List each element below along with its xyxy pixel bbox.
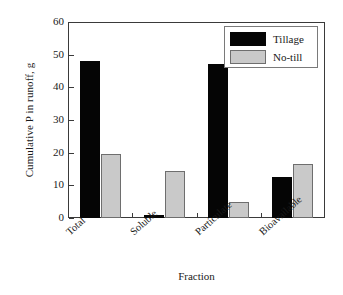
bar-notill-bioavailable — [293, 164, 313, 218]
legend-label-tillage: Tillage — [273, 33, 304, 45]
x-axis-title: Fraction — [68, 270, 325, 283]
legend-item-no-till: No-till — [230, 49, 312, 65]
bar-notill-total — [101, 154, 121, 218]
legend-label-no-till: No-till — [273, 51, 302, 63]
bar-notill-soluble — [165, 171, 185, 218]
legend-swatch-tillage — [230, 32, 266, 46]
legend-item-tillage: Tillage — [230, 31, 312, 47]
legend-swatch-no-till — [230, 50, 266, 64]
bar-chart: Cumulative P in runoff, g 0102030405060 … — [0, 0, 343, 295]
bar-tillage-particulate — [208, 64, 228, 218]
legend: Tillage No-till — [224, 26, 318, 68]
bar-tillage-total — [80, 61, 100, 218]
